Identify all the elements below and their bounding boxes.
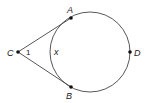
point-c <box>16 50 20 54</box>
point-a <box>69 16 73 20</box>
label-d: D <box>134 48 141 58</box>
geometry-diagram: C 1 x A B D <box>0 0 148 103</box>
label-c: C <box>7 48 14 58</box>
tangent-segment-ca <box>18 18 71 52</box>
label-arc-x: x <box>53 47 59 57</box>
point-d <box>128 50 132 54</box>
diagram-canvas: C 1 x A B D <box>0 0 148 103</box>
tangent-segment-cb <box>18 52 71 87</box>
label-angle-1: 1 <box>26 48 31 57</box>
point-b <box>69 85 73 89</box>
label-a: A <box>66 5 73 15</box>
label-b: B <box>66 91 72 101</box>
